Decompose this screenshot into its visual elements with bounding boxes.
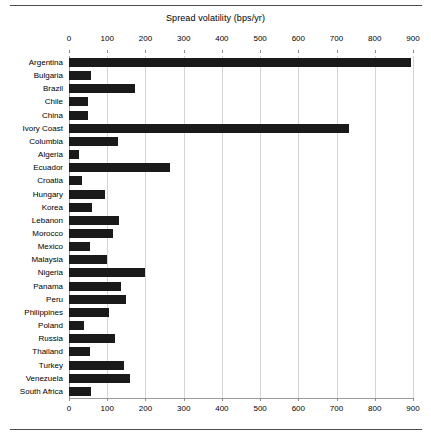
- x-tick: [337, 398, 338, 401]
- category-label: South Africa: [0, 386, 63, 397]
- x-tick-label: 900: [406, 34, 419, 43]
- x-tick-label: 300: [177, 34, 190, 43]
- x-tick: [69, 398, 70, 401]
- bar-row: Poland: [0, 319, 431, 332]
- x-tick: [375, 398, 376, 401]
- bar: [69, 111, 88, 120]
- x-tick: [413, 50, 414, 53]
- x-tick-label: 500: [253, 34, 266, 43]
- bar: [69, 84, 135, 93]
- bar-row: Croatia: [0, 174, 431, 187]
- category-label: Korea: [0, 202, 63, 213]
- category-label: Russia: [0, 333, 63, 344]
- category-label: Hungary: [0, 189, 63, 200]
- x-tick: [337, 50, 338, 53]
- bar: [69, 282, 121, 291]
- figure: Spread volatility (bps/yr) 0100200300400…: [0, 0, 431, 442]
- bar-row: Peru: [0, 293, 431, 306]
- bar-row: Ivory Coast: [0, 122, 431, 135]
- x-tick-label: 0: [67, 34, 71, 43]
- category-label: Columbia: [0, 136, 63, 147]
- bar-row: Bulgaria: [0, 69, 431, 82]
- bar: [69, 124, 349, 133]
- x-tick-label: 600: [292, 404, 305, 413]
- category-label: Philippines: [0, 307, 63, 318]
- bar-row: Brazil: [0, 82, 431, 95]
- bar-row: Nigeria: [0, 266, 431, 279]
- top-horizontal-rule: [10, 5, 422, 6]
- x-tick: [184, 398, 185, 401]
- bar-row: China: [0, 109, 431, 122]
- bar-row: Philippines: [0, 306, 431, 319]
- x-tick-label: 800: [368, 404, 381, 413]
- x-tick: [260, 50, 261, 53]
- x-axis-ticklabels-top: 0100200300400500600700800900: [69, 34, 413, 46]
- x-tick-label: 300: [177, 404, 190, 413]
- x-tick: [298, 398, 299, 401]
- category-label: Brazil: [0, 83, 63, 94]
- category-label: Mexico: [0, 241, 63, 252]
- x-tick-label: 700: [330, 404, 343, 413]
- bar: [69, 374, 130, 383]
- bar-row: Turkey: [0, 359, 431, 372]
- x-axis-tickmarks-bottom: [69, 398, 413, 401]
- bar-row: South Africa: [0, 385, 431, 398]
- bar-row: Chile: [0, 95, 431, 108]
- bottom-horizontal-rule: [10, 429, 422, 430]
- x-tick: [145, 398, 146, 401]
- bar-row: Venezuela: [0, 372, 431, 385]
- bar: [69, 387, 91, 396]
- x-tick-label: 500: [253, 404, 266, 413]
- bar-row: Ecuador: [0, 161, 431, 174]
- bar-row: Malaysia: [0, 253, 431, 266]
- bar: [69, 268, 145, 277]
- bar-row: Argentina: [0, 56, 431, 69]
- category-label: Ecuador: [0, 162, 63, 173]
- bar-row: Hungary: [0, 188, 431, 201]
- x-tick: [222, 50, 223, 53]
- x-tick-label: 200: [139, 34, 152, 43]
- x-tick: [184, 50, 185, 53]
- bar: [69, 361, 124, 370]
- x-tick: [260, 398, 261, 401]
- category-label: Panama: [0, 281, 63, 292]
- bar: [69, 334, 115, 343]
- x-axis-ticklabels-bottom: 0100200300400500600700800900: [69, 404, 413, 416]
- bar: [69, 97, 88, 106]
- x-tick: [375, 50, 376, 53]
- bar-row: Panama: [0, 280, 431, 293]
- bar-rows: ArgentinaBulgariaBrazilChileChinaIvory C…: [0, 56, 431, 398]
- x-tick-label: 0: [67, 404, 71, 413]
- category-label: Algeria: [0, 149, 63, 160]
- bar: [69, 321, 84, 330]
- bar: [69, 229, 113, 238]
- category-label: Lebanon: [0, 215, 63, 226]
- x-tick: [107, 50, 108, 53]
- bar: [69, 295, 126, 304]
- x-tick-label: 100: [101, 404, 114, 413]
- x-tick: [413, 398, 414, 401]
- category-label: Argentina: [0, 57, 63, 68]
- category-label: Turkey: [0, 360, 63, 371]
- bar: [69, 71, 91, 80]
- x-tick: [69, 50, 70, 53]
- bar: [69, 203, 92, 212]
- bar: [69, 242, 90, 251]
- category-label: Poland: [0, 320, 63, 331]
- bar: [69, 190, 105, 199]
- bar-row: Lebanon: [0, 214, 431, 227]
- x-axis-tickmarks-top: [69, 50, 413, 53]
- bar-row: Morocco: [0, 227, 431, 240]
- x-tick: [145, 50, 146, 53]
- bar: [69, 137, 118, 146]
- bar: [69, 255, 107, 264]
- x-tick: [222, 398, 223, 401]
- bar: [69, 308, 109, 317]
- bar-row: Russia: [0, 332, 431, 345]
- x-tick-label: 400: [215, 404, 228, 413]
- category-label: Ivory Coast: [0, 123, 63, 134]
- chart-title: Spread volatility (bps/yr): [0, 13, 431, 23]
- category-label: Peru: [0, 294, 63, 305]
- category-label: Thailand: [0, 346, 63, 357]
- x-tick-label: 600: [292, 34, 305, 43]
